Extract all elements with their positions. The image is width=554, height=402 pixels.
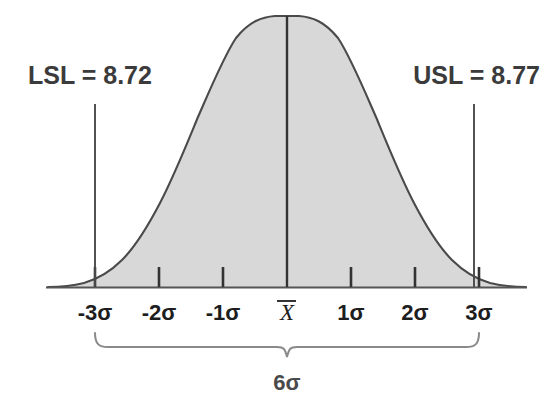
tick-label-minus-2-sigma: -2σ: [142, 300, 177, 325]
mean-label-group: X: [277, 300, 296, 325]
tick-label-plus-2-sigma: 2σ: [401, 300, 428, 325]
tick-label-minus-1-sigma: -1σ: [206, 300, 241, 325]
six-sigma-brace: [95, 333, 479, 357]
tick-label-plus-3-sigma: 3σ: [465, 300, 492, 325]
lsl-label: LSL = 8.72: [28, 61, 152, 89]
tick-label-minus-3-sigma: -3σ: [78, 300, 113, 325]
tick-label-plus-1-sigma: 1σ: [337, 300, 364, 325]
mean-label: X: [279, 300, 295, 325]
six-sigma-label: 6σ: [273, 370, 300, 395]
capability-diagram: LSL = 8.72 USL = 8.77 -3σ -2σ -1σ X 1σ 2…: [0, 0, 554, 402]
usl-label: USL = 8.77: [413, 61, 540, 89]
